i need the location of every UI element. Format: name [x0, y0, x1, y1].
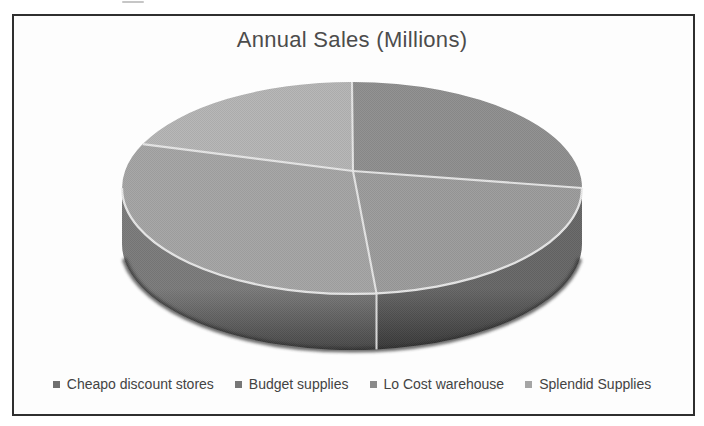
legend-item-3: Lo Cost warehouse — [370, 376, 505, 392]
legend-marker-icon — [370, 381, 377, 388]
legend-label: Splendid Supplies — [539, 376, 651, 392]
legend-item-4: Splendid Supplies — [525, 376, 651, 392]
legend-marker-icon — [525, 381, 532, 388]
legend-marker-icon — [235, 381, 242, 388]
pie-3d-chart — [0, 0, 704, 426]
scanned-page: Annual Sales (Millions) Cheapo discount … — [0, 0, 704, 426]
legend-label: Cheapo discount stores — [67, 376, 214, 392]
legend-marker-icon — [53, 381, 60, 388]
halftone-texture — [119, 79, 585, 353]
legend-label: Budget supplies — [249, 376, 349, 392]
legend: Cheapo discount storesBudget suppliesLo … — [0, 376, 704, 392]
legend-item-1: Cheapo discount stores — [53, 376, 214, 392]
legend-item-2: Budget supplies — [235, 376, 349, 392]
legend-label: Lo Cost warehouse — [384, 376, 505, 392]
